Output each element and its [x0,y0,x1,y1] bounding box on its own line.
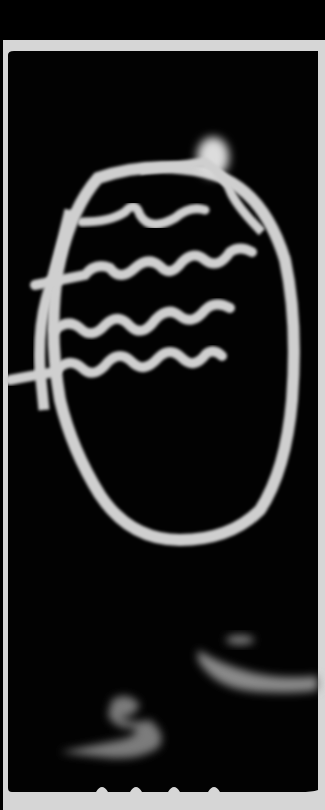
outer-paper-top-margin [0,0,325,40]
photogram-artwork [0,0,325,810]
lower-smudge-mid [226,635,254,645]
